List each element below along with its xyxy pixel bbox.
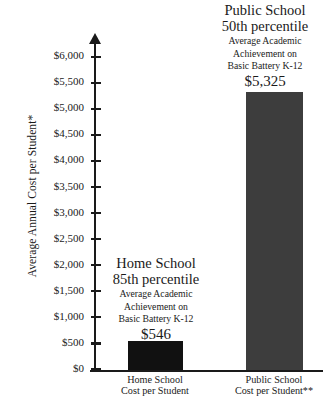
y-axis-tick-label: $5,500 bbox=[4, 75, 84, 87]
y-axis-tick bbox=[91, 108, 101, 110]
annotation-public-sub-2: Achievement on bbox=[195, 49, 335, 60]
category-label-home-school: Home School Cost per Student bbox=[95, 374, 215, 397]
y-axis-tick-label: $6,000 bbox=[4, 49, 84, 61]
annotation-home-sub-2: Achievement on bbox=[86, 302, 226, 313]
y-axis-tick-label: $4,500 bbox=[4, 127, 84, 139]
y-axis-tick-label: $4,000 bbox=[4, 153, 84, 165]
y-axis-tick-label: $1,000 bbox=[4, 310, 84, 322]
annotation-home-headline-2: 85th percentile bbox=[86, 272, 226, 288]
y-axis-arrow-icon bbox=[89, 33, 101, 44]
y-axis-tick-label: $5,000 bbox=[4, 101, 84, 113]
annotation-public-headline-1: Public School bbox=[195, 3, 335, 19]
y-axis-tick-label: $3,000 bbox=[4, 206, 84, 218]
annotation-home-headline-1: Home School bbox=[86, 256, 226, 272]
annotation-home-value: $546 bbox=[86, 326, 226, 343]
annotation-public-headline-2: 50th percentile bbox=[195, 19, 335, 35]
y-axis-tick bbox=[91, 186, 101, 188]
y-axis-tick-label: $2,000 bbox=[4, 258, 84, 270]
y-axis-tick bbox=[91, 134, 101, 136]
annotation-public-value: $5,325 bbox=[195, 73, 335, 90]
y-axis-tick-label: $0 bbox=[4, 362, 84, 374]
annotation-public-school: Public School 50th percentile Average Ac… bbox=[195, 3, 335, 90]
annotation-home-sub-3: Basic Battery K-12 bbox=[86, 314, 226, 325]
category-home-line-2: Cost per Student bbox=[95, 385, 215, 396]
bar-home-school bbox=[128, 341, 183, 369]
y-axis-tick bbox=[91, 56, 101, 58]
bar-public-school bbox=[246, 92, 303, 370]
y-axis-tick bbox=[91, 160, 101, 162]
y-axis-tick bbox=[91, 212, 101, 214]
y-axis-tick bbox=[91, 368, 101, 370]
category-public-line-1: Public School bbox=[214, 374, 334, 385]
annotation-public-sub-1: Average Academic bbox=[195, 36, 335, 47]
annotation-public-sub-3: Basic Battery K-12 bbox=[195, 61, 335, 72]
annotation-home-school: Home School 85th percentile Average Acad… bbox=[86, 256, 226, 343]
y-axis-tick-label: $500 bbox=[4, 336, 84, 348]
bar-chart: Average Annual Cost per Student* $6,000$… bbox=[0, 0, 335, 403]
y-axis-tick-label: $3,500 bbox=[4, 180, 84, 192]
y-axis-tick-label: $1,500 bbox=[4, 284, 84, 296]
category-public-line-2: Cost per Student** bbox=[214, 385, 334, 396]
y-axis-tick-label: $2,500 bbox=[4, 232, 84, 244]
category-home-line-1: Home School bbox=[95, 374, 215, 385]
category-label-public-school: Public School Cost per Student** bbox=[214, 374, 334, 397]
annotation-home-sub-1: Average Academic bbox=[86, 289, 226, 300]
y-axis-tick bbox=[91, 82, 101, 84]
y-axis-tick bbox=[91, 238, 101, 240]
x-axis-line bbox=[90, 370, 323, 372]
